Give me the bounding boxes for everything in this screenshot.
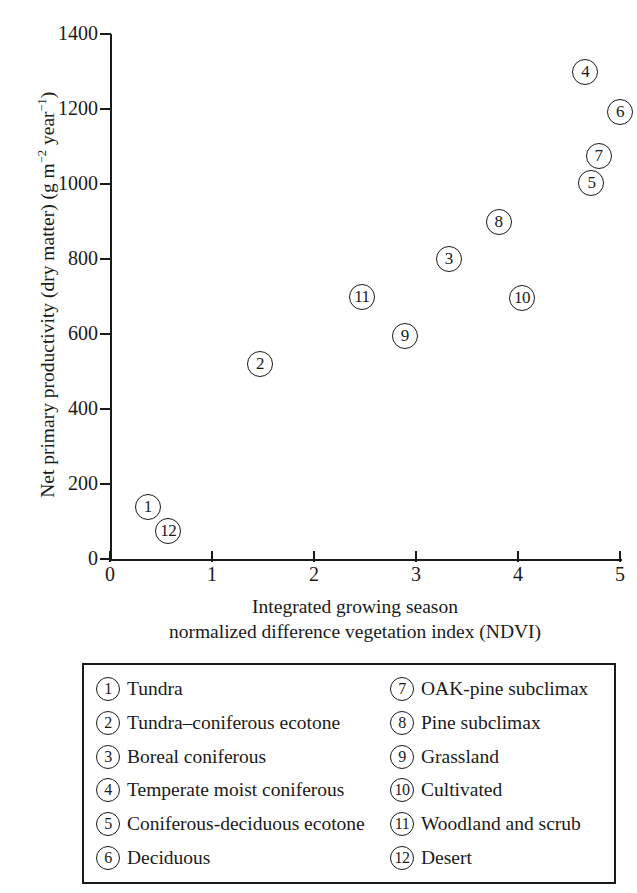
legend-item-label: Boreal coniferous xyxy=(127,746,266,768)
x-axis-tick-label: 1 xyxy=(192,563,232,585)
x-axis-tick-label: 2 xyxy=(294,563,334,585)
x-axis-title-line-2: normalized difference vegetation index (… xyxy=(169,621,541,642)
y-axis-tick-mark xyxy=(100,183,111,185)
x-axis-tick-mark xyxy=(415,551,417,562)
legend-marker-3: 3 xyxy=(96,745,120,769)
y-axis-tick-label-text: 1400 xyxy=(38,23,98,43)
x-axis-tick-mark xyxy=(313,551,315,562)
data-point-marker-8: 8 xyxy=(486,209,512,235)
y-axis-tick-mark xyxy=(100,108,111,110)
scatter-plot-figure: Net primary productivity (dry matter) (g… xyxy=(0,0,637,655)
legend-box: 1Tundra2Tundra–coniferous ecotone3Boreal… xyxy=(82,663,616,884)
y-axis-tick-mark xyxy=(100,258,111,260)
y-axis-tick-label: 200 xyxy=(0,473,98,493)
legend-item: 10Cultivated xyxy=(390,773,614,807)
legend-grid: 1Tundra2Tundra–coniferous ecotone3Boreal… xyxy=(84,665,614,882)
x-axis-tick-label: 4 xyxy=(498,563,538,585)
legend-item-label: Tundra xyxy=(127,678,183,700)
legend-item: 9Grassland xyxy=(390,740,614,774)
legend-item-label: Cultivated xyxy=(421,779,502,801)
x-axis-tick-mark xyxy=(517,551,519,562)
x-axis-tick-mark xyxy=(619,551,621,562)
y-axis-tick-label: 1200 xyxy=(0,98,98,118)
data-point-marker-12: 12 xyxy=(155,518,181,544)
y-axis-tick-mark xyxy=(100,408,111,410)
legend-marker-6: 6 xyxy=(96,846,120,870)
legend-marker-7: 7 xyxy=(390,677,414,701)
y-axis-tick-label: 1000 xyxy=(0,173,98,193)
data-point-marker-5: 5 xyxy=(578,170,604,196)
legend-item-label: OAK-pine subclimax xyxy=(421,678,588,700)
legend-item: 6Deciduous xyxy=(96,841,390,875)
y-axis-tick-label: 600 xyxy=(0,323,98,343)
legend-item-label: Tundra–coniferous ecotone xyxy=(127,712,340,734)
y-axis-tick-label: 800 xyxy=(0,248,98,268)
y-axis-tick-label-text: 800 xyxy=(38,248,98,268)
legend-marker-4: 4 xyxy=(96,778,120,802)
y-axis-tick-label: 400 xyxy=(0,398,98,418)
data-point-marker-11: 11 xyxy=(349,284,375,310)
x-axis-title-line-1: Integrated growing season xyxy=(252,596,458,617)
x-axis-tick-mark xyxy=(211,551,213,562)
y-axis-tick-label-text: 600 xyxy=(38,323,98,343)
x-axis-tick-label: 3 xyxy=(396,563,436,585)
legend-marker-2: 2 xyxy=(96,711,120,735)
data-point-marker-9: 9 xyxy=(392,323,418,349)
x-axis-tick-label: 0 xyxy=(90,563,130,585)
data-point-marker-2: 2 xyxy=(247,351,273,377)
y-axis-tick-mark xyxy=(100,483,111,485)
y-axis-tick-mark xyxy=(100,333,111,335)
legend-item: 12Desert xyxy=(390,841,614,875)
legend-marker-12: 12 xyxy=(390,846,414,870)
x-axis-title: Integrated growing season normalized dif… xyxy=(90,594,620,644)
data-point-marker-4: 4 xyxy=(572,59,598,85)
legend-marker-1: 1 xyxy=(96,677,120,701)
data-point-marker-3: 3 xyxy=(436,246,462,272)
x-axis-line xyxy=(110,559,622,561)
y-axis-tick-label: 1400 xyxy=(0,23,98,43)
legend-item-label: Desert xyxy=(421,847,472,869)
legend-item-label: Grassland xyxy=(421,746,499,768)
y-axis-line xyxy=(110,34,112,561)
legend-item-label: Temperate moist coniferous xyxy=(127,779,344,801)
legend-item: 11Woodland and scrub xyxy=(390,807,614,841)
legend-item: 7OAK-pine subclimax xyxy=(390,672,614,706)
x-axis-tick-mark xyxy=(109,551,111,562)
data-point-marker-10: 10 xyxy=(509,285,535,311)
data-point-marker-1: 1 xyxy=(135,494,161,520)
legend-item: 3Boreal coniferous xyxy=(96,740,390,774)
legend-item: 5Coniferous-deciduous ecotone xyxy=(96,807,390,841)
legend-marker-11: 11 xyxy=(390,812,414,836)
y-axis-title-exponent-1: −2 xyxy=(35,150,49,163)
y-axis-tick-label-text: 400 xyxy=(38,398,98,418)
y-axis-tick-label-text: 200 xyxy=(38,473,98,493)
legend-item-label: Woodland and scrub xyxy=(421,813,581,835)
y-axis-tick-label-text: 1000 xyxy=(38,173,98,193)
legend-marker-9: 9 xyxy=(390,745,414,769)
legend-item: 8Pine subclimax xyxy=(390,706,614,740)
x-axis-tick-label: 5 xyxy=(600,563,637,585)
y-axis-tick-label: 0 xyxy=(0,548,98,568)
legend-item: 2Tundra–coniferous ecotone xyxy=(96,706,390,740)
legend-item-label: Deciduous xyxy=(127,847,210,869)
legend-item: 4Temperate moist coniferous xyxy=(96,773,390,807)
legend-marker-8: 8 xyxy=(390,711,414,735)
legend-item-label: Pine subclimax xyxy=(421,712,541,734)
legend-marker-10: 10 xyxy=(390,778,414,802)
y-axis-tick-mark xyxy=(100,33,111,35)
legend-item: 1Tundra xyxy=(96,672,390,706)
legend-item-label: Coniferous-deciduous ecotone xyxy=(127,813,365,835)
data-point-marker-6: 6 xyxy=(607,99,633,125)
legend-marker-5: 5 xyxy=(96,812,120,836)
y-axis-tick-label-text: 0 xyxy=(38,548,98,568)
y-axis-tick-label-text: 1200 xyxy=(38,98,98,118)
data-point-marker-7: 7 xyxy=(586,143,612,169)
